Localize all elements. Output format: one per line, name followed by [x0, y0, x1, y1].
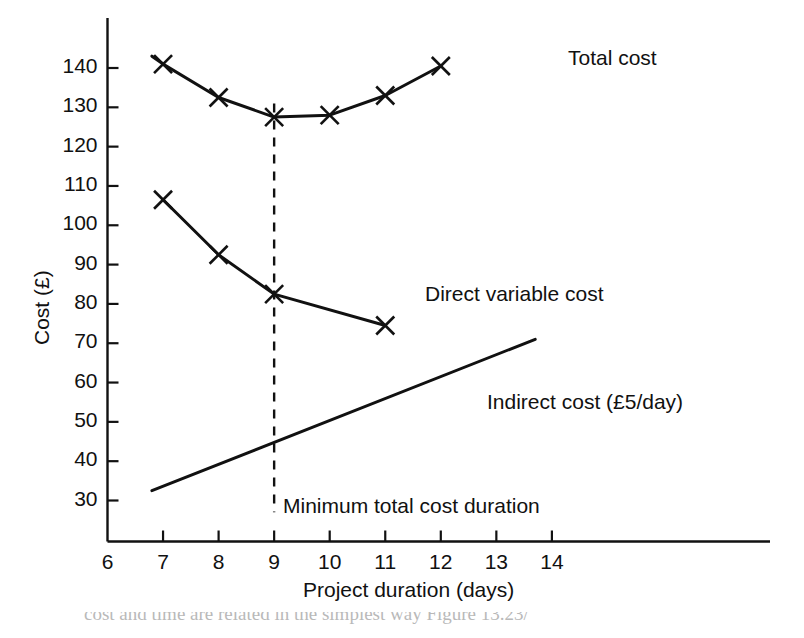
- y-axis-tick-label: 120: [38, 133, 98, 157]
- page-caption-strip: cost and time are related in the simples…: [0, 612, 804, 638]
- x-axis-tick-label: 12: [417, 550, 465, 574]
- series-line-total-cost: [152, 56, 441, 117]
- series-label-indirect-cost: Indirect cost (£5/day): [487, 390, 683, 414]
- y-axis-tick-label: 110: [38, 172, 98, 196]
- chart-canvas: [0, 0, 804, 638]
- y-axis-tick-label: 140: [38, 54, 98, 78]
- x-axis-tick-label: 8: [195, 550, 243, 574]
- x-axis-tick-label: 7: [139, 550, 187, 574]
- series-label-total-cost: Total cost: [568, 46, 657, 70]
- x-axis-tick-label: 14: [528, 550, 576, 574]
- y-axis-tick-label: 30: [38, 487, 98, 511]
- series-label-direct-variable-cost: Direct variable cost: [425, 282, 604, 306]
- x-axis-tick-label: 9: [250, 550, 298, 574]
- x-axis-tick-label: 11: [361, 550, 409, 574]
- y-axis-title: Cost (£): [30, 270, 54, 345]
- annotation-minimum-total-cost-duration: Minimum total cost duration: [283, 494, 540, 518]
- x-axis-tick-label: 13: [472, 550, 520, 574]
- x-axis-title: Project duration (days): [303, 578, 514, 602]
- y-axis-tick-label: 50: [38, 408, 98, 432]
- series-line-indirect-cost: [152, 339, 535, 490]
- series-group: [152, 55, 535, 491]
- figure-container: 30405060708090100110120130140 6789101112…: [0, 0, 804, 638]
- y-axis-tick-label: 130: [38, 93, 98, 117]
- y-axis-tick-label: 100: [38, 211, 98, 235]
- y-axis-tick-label: 40: [38, 447, 98, 471]
- x-axis-tick-label: 10: [306, 550, 354, 574]
- axes-group: [108, 18, 771, 542]
- y-axis-tick-label: 60: [38, 369, 98, 393]
- page-caption-text: cost and time are related in the simples…: [84, 612, 529, 625]
- x-axis-tick-label: 6: [84, 550, 132, 574]
